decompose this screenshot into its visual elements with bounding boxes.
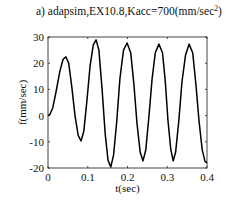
y-tick-label: 20 xyxy=(33,57,45,69)
y-axis-label: f(mm/sec) xyxy=(16,80,29,126)
y-tick-label: -10 xyxy=(29,136,44,148)
line-chart: a) adapsim,EX10.8,Kacc=700(mm/sec2) -20-… xyxy=(0,0,226,208)
x-tick-label: 0.1 xyxy=(81,171,95,183)
y-tick-label: -20 xyxy=(29,162,44,174)
x-tick-label: 0 xyxy=(45,171,51,183)
x-tick-label: 0.4 xyxy=(200,171,214,183)
x-axis-label: t(sec) xyxy=(115,182,140,195)
chart-title: a) adapsim,EX10.8,Kacc=700(mm/sec2) xyxy=(36,4,222,18)
plot-frame xyxy=(48,37,207,168)
y-tick-label: 30 xyxy=(33,31,45,43)
y-tick-label: 0 xyxy=(39,110,45,122)
y-tick-label: 10 xyxy=(33,83,45,95)
x-tick-label: 0.3 xyxy=(160,171,174,183)
